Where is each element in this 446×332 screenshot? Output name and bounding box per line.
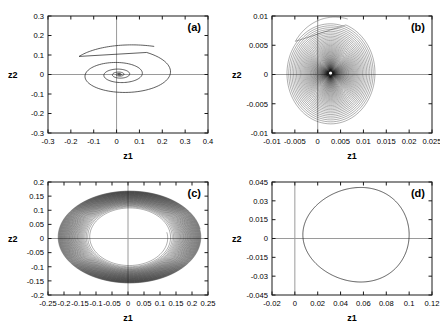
x-tick-label: 0.005 bbox=[331, 137, 350, 146]
y-tick-label: -0.2 bbox=[31, 291, 44, 300]
x-axis-label: z1 bbox=[347, 151, 357, 161]
y-tick-label: 0.045 bbox=[249, 178, 268, 187]
x-tick-label: 0.06 bbox=[356, 299, 371, 308]
y-axis-label: z2 bbox=[8, 70, 18, 80]
x-tick-label: 0.3 bbox=[180, 137, 191, 146]
y-tick-label: 0 bbox=[40, 234, 44, 243]
y-tick-label: -0.015 bbox=[246, 253, 268, 262]
y-tick-label: -0.045 bbox=[246, 291, 268, 300]
x-tick-label: -0.02 bbox=[263, 299, 280, 308]
panel-label: (b) bbox=[411, 21, 425, 33]
x-tick-label: -0.01 bbox=[263, 137, 280, 146]
x-tick-label: 0.12 bbox=[425, 299, 440, 308]
trajectory-curve bbox=[79, 45, 170, 93]
y-tick-label: -0.2 bbox=[31, 109, 44, 118]
trajectory-curve bbox=[58, 191, 201, 283]
x-tick-label: 0.02 bbox=[402, 137, 417, 146]
y-tick-label: 0.005 bbox=[249, 41, 268, 50]
y-tick-label: 0 bbox=[264, 234, 268, 243]
panel-label: (d) bbox=[411, 187, 425, 199]
x-tick-label: 0 bbox=[293, 299, 297, 308]
x-tick-label: -0.2 bbox=[64, 137, 77, 146]
subplot-d: -0.0200.020.040.060.080.10.12-0.045-0.03… bbox=[226, 172, 440, 329]
y-tick-label: -0.1 bbox=[31, 263, 44, 272]
x-tick-label: 0.025 bbox=[422, 137, 440, 146]
y-tick-label: 0.015 bbox=[249, 215, 268, 224]
y-tick-label: 0.1 bbox=[33, 51, 44, 60]
x-axis-label: z1 bbox=[347, 313, 357, 323]
x-tick-label: -0.005 bbox=[284, 137, 306, 146]
x-axis-label: z1 bbox=[123, 313, 133, 323]
y-tick-label: 0 bbox=[264, 70, 268, 79]
y-tick-label: -0.005 bbox=[246, 100, 268, 109]
x-tick-label: 0.015 bbox=[377, 137, 396, 146]
y-tick-label: -0.3 bbox=[31, 129, 44, 138]
y-axis-label: z2 bbox=[8, 234, 18, 244]
subplot-c: -0.25-0.2-0.15-0.1-0.0500.050.10.150.20.… bbox=[2, 172, 216, 329]
x-tick-label: -0.25 bbox=[39, 299, 56, 308]
x-tick-label: 0.25 bbox=[201, 299, 216, 308]
y-tick-label: 0.03 bbox=[253, 197, 268, 206]
x-tick-label: -0.1 bbox=[87, 137, 100, 146]
x-tick-label: 0 bbox=[126, 299, 130, 308]
y-tick-label: -0.1 bbox=[31, 90, 44, 99]
x-tick-label: -0.2 bbox=[57, 299, 70, 308]
y-tick-label: 0.1 bbox=[33, 206, 44, 215]
figure-root: -0.3-0.2-0.100.10.20.30.4-0.3-0.2-0.100.… bbox=[0, 0, 446, 332]
y-tick-label: -0.01 bbox=[251, 129, 268, 138]
x-tick-label: -0.1 bbox=[89, 299, 102, 308]
x-tick-label: 0.08 bbox=[379, 299, 394, 308]
y-tick-label: 0.01 bbox=[253, 12, 268, 21]
x-tick-label: 0.15 bbox=[169, 299, 184, 308]
x-tick-label: 0.02 bbox=[310, 299, 325, 308]
y-tick-label: -0.03 bbox=[251, 272, 268, 281]
x-tick-label: 0.1 bbox=[404, 299, 415, 308]
x-tick-label: 0.04 bbox=[333, 299, 348, 308]
y-tick-label: 0.3 bbox=[33, 12, 44, 21]
x-tick-label: 0.1 bbox=[134, 137, 145, 146]
x-tick-label: -0.3 bbox=[41, 137, 54, 146]
x-tick-label: 0 bbox=[316, 137, 320, 146]
subplot-a: -0.3-0.2-0.100.10.20.30.4-0.3-0.2-0.100.… bbox=[2, 6, 216, 167]
trajectory-curve bbox=[303, 187, 409, 282]
panel-label: (a) bbox=[188, 21, 202, 33]
trajectory-curve bbox=[287, 17, 375, 124]
y-tick-label: -0.15 bbox=[27, 277, 44, 286]
y-tick-label: -0.05 bbox=[27, 248, 44, 257]
y-tick-label: 0.2 bbox=[33, 31, 44, 40]
y-tick-label: 0 bbox=[40, 70, 44, 79]
y-axis-label: z2 bbox=[232, 70, 242, 80]
x-tick-label: 0.2 bbox=[157, 137, 168, 146]
x-tick-label: -0.15 bbox=[71, 299, 88, 308]
x-tick-label: 0.01 bbox=[356, 137, 371, 146]
x-tick-label: -0.05 bbox=[103, 299, 120, 308]
x-tick-label: 0 bbox=[114, 137, 118, 146]
y-tick-label: 0.05 bbox=[29, 220, 44, 229]
panel-label: (c) bbox=[188, 187, 202, 199]
x-tick-label: 0.05 bbox=[137, 299, 152, 308]
x-tick-label: 0.4 bbox=[203, 137, 214, 146]
x-tick-label: 0.1 bbox=[155, 299, 166, 308]
subplot-b: -0.01-0.00500.0050.010.0150.020.025-0.01… bbox=[226, 6, 440, 167]
x-axis-label: z1 bbox=[123, 151, 133, 161]
y-tick-label: 0.2 bbox=[33, 178, 44, 187]
y-axis-label: z2 bbox=[232, 234, 242, 244]
x-tick-label: 0.2 bbox=[187, 299, 198, 308]
y-tick-label: 0.15 bbox=[29, 192, 44, 201]
